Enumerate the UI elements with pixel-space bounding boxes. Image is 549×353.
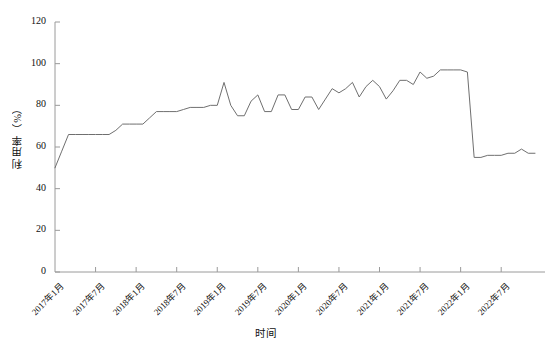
- chart-container: 利用率（%） 020406080100120 2017年1月2017年7月201…: [0, 0, 549, 353]
- line-chart-plot: [0, 0, 549, 353]
- axis-tick-marks: [55, 22, 501, 272]
- utilization-rate-line: [55, 70, 535, 168]
- axis-lines: [55, 22, 545, 272]
